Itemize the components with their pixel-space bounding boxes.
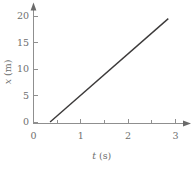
y-axis-title-unit: (m) bbox=[2, 60, 13, 76]
x-axis-title: t (s) bbox=[92, 150, 111, 161]
x-axis-arrow-icon bbox=[183, 121, 191, 127]
y-tick-marks bbox=[34, 16, 39, 122]
y-axis-title: x (m) bbox=[2, 60, 13, 85]
y-tick-label-10: 10 bbox=[17, 63, 29, 74]
y-axis-arrow-icon bbox=[31, 3, 37, 11]
y-axis-title-symbol: x bbox=[2, 78, 13, 84]
y-tick-label-15: 15 bbox=[17, 37, 29, 48]
y-tick-labels: 0 5 10 15 20 bbox=[17, 10, 29, 127]
x-tick-label-3: 3 bbox=[172, 130, 178, 141]
x-tick-label-2: 2 bbox=[125, 130, 131, 141]
chart-canvas: 0 5 10 15 20 x (m) bbox=[0, 0, 195, 170]
y-tick-label-5: 5 bbox=[23, 90, 29, 101]
x-tick-label-1: 1 bbox=[78, 130, 84, 141]
x-axis-title-symbol: t bbox=[92, 150, 96, 161]
x-tick-marks-minor bbox=[57, 120, 152, 124]
x-tick-label-0: 0 bbox=[30, 130, 36, 141]
data-series-group bbox=[50, 19, 168, 122]
x-axis-title-unit: (s) bbox=[99, 150, 111, 161]
y-axis-group: 0 5 10 15 20 x (m) bbox=[2, 3, 38, 128]
position-line-series bbox=[50, 19, 168, 122]
position-time-graph-figure: 0 5 10 15 20 x (m) bbox=[0, 0, 195, 170]
y-tick-label-20: 20 bbox=[17, 10, 29, 21]
x-tick-labels: 0 1 2 3 bbox=[30, 130, 178, 141]
x-axis-group: 0 1 2 3 t (s) bbox=[30, 119, 191, 162]
y-tick-label-0: 0 bbox=[23, 116, 29, 127]
